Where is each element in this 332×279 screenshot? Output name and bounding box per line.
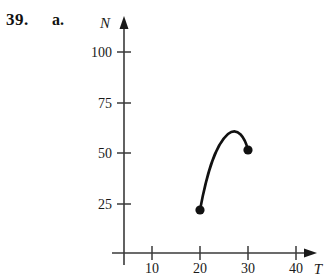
y-tick-label-25: 25 — [98, 197, 112, 212]
figure-panel: 39. a. 100 75 50 25 10 20 30 40 N T — [0, 0, 332, 279]
x-axis-label: T — [314, 261, 324, 277]
y-tick-label-75: 75 — [98, 96, 112, 111]
y-axis-arrow-icon — [120, 16, 129, 29]
x-axis-arrow-icon — [304, 249, 317, 258]
y-axis-label: N — [99, 15, 111, 31]
x-tick-label-20: 20 — [193, 261, 207, 276]
data-point-left-endpoint — [195, 205, 204, 214]
x-tick-label-30: 30 — [241, 261, 255, 276]
x-tick-label-40: 40 — [289, 261, 303, 276]
x-tick-label-10: 10 — [145, 261, 159, 276]
data-curve — [200, 131, 248, 210]
data-point-right-endpoint — [243, 145, 252, 154]
coordinate-plot: 100 75 50 25 10 20 30 40 N T — [0, 0, 332, 279]
y-tick-label-100: 100 — [91, 45, 112, 60]
y-tick-label-50: 50 — [98, 146, 112, 161]
